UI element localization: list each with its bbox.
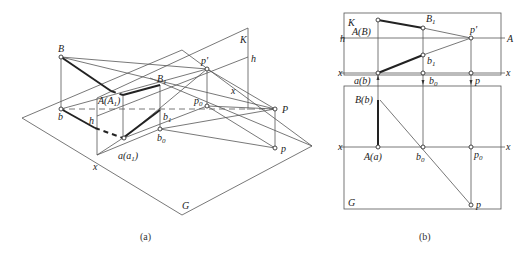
ray-pp-B [61,57,207,69]
line-b1-pp [423,38,471,55]
label-x-left-top: x [337,67,343,78]
label-p0: p0 [193,95,203,108]
label-b: b [58,111,63,122]
label-a-a1: a(a1) [118,150,139,163]
label-B: B [58,43,64,54]
point-p0 [205,104,209,108]
label-b0-bottom: b0 [416,151,425,164]
segment-B-A [61,57,111,91]
label-x-mid: x [230,85,236,96]
label-A-A1: A(A1) [97,95,121,108]
point-p [273,146,277,150]
point-p-prime [469,36,473,40]
point-p [469,203,473,207]
figure-b: K A(B) B1 p' h A b1 x x a(b) b0 p B(b) x… [337,13,514,243]
label-p-prime: p' [200,55,209,66]
segment-b-a-hidden [95,128,123,138]
label-p: p [475,199,481,210]
point-B [59,55,63,59]
frame-k [344,13,501,75]
label-B-b: B(b) [355,94,373,106]
point-p-top [469,71,473,75]
point-a [122,136,126,140]
point-p-prime [205,67,209,71]
arrow-b0 [422,80,425,85]
arrow-p [470,80,473,85]
line-B-p [380,100,471,205]
ray-p-p0 [207,106,275,148]
label-B1: B1 [157,73,167,86]
segment-a-b1 [123,110,160,138]
arrow-a [377,75,380,80]
label-K: K [239,34,248,45]
label-P: P [281,104,288,115]
label-b1: b1 [427,55,436,68]
label-A-B: A(B) [351,26,372,38]
label-x-right-bottom: x [505,141,511,152]
label-A-a: A(a) [363,151,382,163]
label-x-left-bottom: x [337,141,343,152]
figure-a: B b h A(A1) B1 b1 b0 a(a1) x G K h p' p0… [22,28,312,243]
point-b0-bottom [421,145,425,149]
segment-AB-B1 [378,20,423,28]
caption-b: (b) [419,231,431,243]
plane-g [22,50,312,215]
point-b1 [421,53,425,57]
label-a-b: a(b) [354,75,371,87]
point-Aa [376,145,380,149]
segment-a-b1 [378,55,423,73]
label-G: G [348,197,355,208]
ray-P-b0 [160,109,275,129]
ray-pp-P [207,69,275,109]
point-ab [376,71,380,75]
projection-diagram: B b h A(A1) B1 b1 b0 a(a1) x G K h p' p0… [0,0,526,261]
ray-p-b0 [160,129,275,148]
label-x: x [92,161,98,172]
label-h: h [89,115,94,126]
label-h-left: h [340,33,345,44]
label-A-right: A [506,33,514,44]
label-x-right-top: x [505,67,511,78]
point-b0-top [421,71,425,75]
label-p0: p0 [473,149,483,162]
label-p-top: p [474,75,480,86]
label-G: G [182,200,189,211]
point-b0 [158,127,162,131]
point-AB [376,18,380,22]
label-p: p [280,143,286,154]
label-b0: b0 [157,132,166,145]
line-B1-pp [423,28,471,38]
point-p0 [469,145,473,149]
label-h-right: h [251,53,256,64]
point-B1 [421,26,425,30]
label-p-prime: p' [469,24,478,35]
caption-a: (a) [140,231,151,243]
label-B1: B1 [426,13,436,26]
point-P [273,107,277,111]
